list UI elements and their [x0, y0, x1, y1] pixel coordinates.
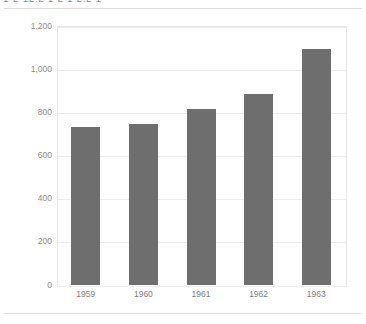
- x-tick-label: 1961: [172, 289, 230, 300]
- bar-1962[interactable]: [244, 94, 273, 285]
- page-header-strip: 1-2 12.2 1 2 1 2.2 1: [0, 0, 366, 7]
- x-axis: 19591960196119621963: [57, 289, 345, 303]
- y-tick-label: 0: [0, 281, 52, 290]
- x-tick-label: 1963: [287, 289, 345, 300]
- document-page: 1-2 12.2 1 2 1 2.2 1 02004006008001,0001…: [0, 0, 366, 324]
- footer-divider: [4, 313, 362, 314]
- bar-1959[interactable]: [71, 127, 100, 285]
- x-tick-label: 1962: [230, 289, 288, 300]
- x-tick-label: 1960: [115, 289, 173, 300]
- y-tick-label: 600: [0, 151, 52, 160]
- x-tick-label: 1959: [57, 289, 115, 300]
- gridline: [58, 286, 346, 287]
- y-tick-label: 1,000: [0, 65, 52, 74]
- bar-1960[interactable]: [129, 124, 158, 285]
- header-divider: [4, 8, 362, 9]
- clipped-header-text: 1-2 12.2 1 2 1 2.2 1: [3, 0, 102, 5]
- bar-chart: 02004006008001,0001,200 1959196019611962…: [0, 12, 366, 310]
- y-tick-label: 200: [0, 237, 52, 246]
- y-tick-label: 400: [0, 194, 52, 203]
- bar-1963[interactable]: [302, 49, 331, 285]
- bars-layer: [57, 26, 345, 285]
- y-axis: 02004006008001,0001,200: [0, 26, 52, 285]
- y-tick-label: 800: [0, 108, 52, 117]
- bar-1961[interactable]: [187, 109, 216, 285]
- y-tick-label: 1,200: [0, 22, 52, 31]
